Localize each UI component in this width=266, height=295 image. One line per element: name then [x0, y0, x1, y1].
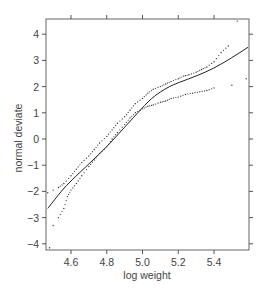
data-point [81, 175, 82, 176]
data-point [175, 97, 176, 98]
data-point [144, 107, 145, 108]
data-point [179, 77, 180, 78]
data-point [137, 101, 138, 102]
data-point [90, 153, 91, 154]
data-point [63, 183, 64, 184]
data-point [185, 75, 186, 76]
data-point [147, 106, 148, 107]
data-point [144, 96, 145, 97]
data-point [231, 85, 232, 86]
data-point [190, 93, 191, 94]
x-tick-label: 5.0 [135, 256, 150, 268]
data-point [204, 67, 205, 68]
data-point [173, 80, 174, 81]
data-point [115, 134, 116, 135]
data-point [76, 183, 77, 184]
data-point [97, 145, 98, 146]
data-point [52, 225, 53, 226]
data-point [165, 83, 166, 84]
data-point [111, 138, 112, 139]
data-point [68, 194, 69, 195]
y-axis-ticks: −4−3−2−101234 [27, 28, 253, 250]
upper-envelope-points [47, 20, 238, 193]
data-point [201, 91, 202, 92]
data-point [181, 76, 182, 77]
data-point [61, 211, 62, 212]
data-point [145, 107, 146, 108]
data-point [68, 178, 69, 179]
data-point [63, 208, 64, 209]
data-point [162, 85, 163, 86]
data-point [178, 96, 179, 97]
x-tick-label: 5.2 [171, 256, 186, 268]
y-tick-label: 4 [33, 28, 39, 40]
x-axis-label: log weight [123, 269, 170, 281]
data-point [128, 112, 129, 113]
data-point [129, 117, 130, 118]
data-point [126, 114, 127, 115]
y-tick-label: −1 [27, 159, 39, 171]
data-point [206, 66, 207, 67]
data-point [119, 129, 120, 130]
data-point [133, 114, 134, 115]
data-point [187, 75, 188, 76]
data-point [74, 185, 75, 186]
data-point [117, 132, 118, 133]
data-point [92, 162, 93, 163]
data-point [111, 129, 112, 130]
data-point [188, 74, 189, 75]
data-point [187, 93, 188, 94]
data-point [92, 151, 93, 152]
data-point [191, 73, 192, 74]
data-point [151, 105, 152, 106]
data-point [211, 88, 212, 89]
data-point [142, 98, 143, 99]
y-tick-label: 2 [33, 81, 39, 93]
data-point [104, 148, 105, 149]
data-point [206, 90, 207, 91]
data-point [128, 120, 129, 121]
data-point [201, 69, 202, 70]
data-point [101, 151, 102, 152]
data-point [124, 124, 125, 125]
data-point [124, 116, 125, 117]
data-point [106, 146, 107, 147]
data-point [204, 90, 205, 91]
data-point [101, 140, 102, 141]
data-point [131, 107, 132, 108]
data-point [86, 169, 87, 170]
lower-envelope-points [49, 78, 247, 248]
data-point [165, 100, 166, 101]
data-point [122, 127, 123, 128]
y-axis-label: normal deviate [12, 103, 24, 172]
y-tick-label: −2 [27, 185, 39, 197]
chart: 4.64.85.05.25.4 −4−3−2−101234 log weight… [0, 0, 266, 295]
data-point [195, 71, 196, 72]
data-point [72, 173, 73, 174]
data-point [49, 247, 50, 248]
data-point [70, 175, 71, 176]
data-point [193, 72, 194, 73]
data-point [52, 189, 53, 190]
data-point [147, 92, 148, 93]
data-point [155, 88, 156, 89]
data-point [70, 189, 71, 190]
data-point [225, 48, 226, 49]
data-point [66, 200, 67, 201]
data-point [129, 109, 130, 110]
data-point [216, 58, 217, 59]
data-point [108, 134, 109, 135]
data-point [170, 98, 171, 99]
data-point [122, 118, 123, 119]
data-point [106, 136, 107, 137]
data-point [157, 103, 158, 104]
data-point [115, 125, 116, 126]
x-tick-label: 4.6 [64, 256, 79, 268]
data-point [153, 89, 154, 90]
data-point [58, 187, 59, 188]
data-point [64, 204, 65, 205]
x-tick-label: 5.4 [207, 256, 222, 268]
data-point [99, 153, 100, 154]
data-point [194, 92, 195, 93]
data-point [60, 186, 61, 187]
